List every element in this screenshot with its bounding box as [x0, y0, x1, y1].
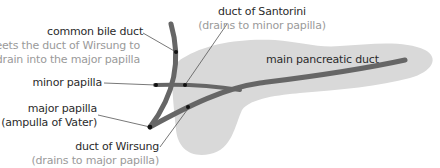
pancreatic-duct-diagram: common bile duct meets the duct of Wirsu…	[0, 0, 440, 168]
dot-common-bile-duct	[174, 50, 178, 54]
note-duct-of-santorini: (drains to minor papilla)	[195, 19, 329, 33]
note-common-bile-duct-line1: meets the duct of Wirsung to	[0, 39, 140, 53]
dot-santorini	[183, 83, 187, 87]
label-ampulla-of-vater: (ampulla of Vater)	[1, 116, 97, 130]
label-common-bile-duct: common bile duct	[47, 25, 143, 39]
leader-minor-papilla	[104, 83, 156, 85]
dot-minor-papilla	[154, 83, 158, 87]
label-duct-of-santorini: duct of Santorini	[207, 5, 317, 19]
note-duct-of-wirsung: (drains to major papilla)	[32, 154, 160, 168]
dot-wirsung	[186, 105, 190, 109]
label-main-pancreatic-duct: main pancreatic duct	[266, 53, 379, 67]
label-minor-papilla: minor papilla	[32, 76, 102, 90]
leader-common-bile-duct	[143, 33, 176, 52]
label-duct-of-wirsung: duct of Wirsung	[75, 140, 159, 154]
label-major-papilla: major papilla	[28, 102, 97, 116]
leader-major-papilla	[98, 115, 150, 127]
note-common-bile-duct-line2: drain into the major papilla	[0, 53, 140, 67]
dot-major-papilla	[148, 125, 153, 130]
